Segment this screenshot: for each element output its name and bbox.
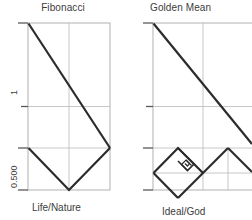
panel-golden-mean: Golden Mean: [126, 0, 252, 220]
fibonacci-ytick-0500: 0.500: [9, 165, 19, 188]
fibonacci-grid: [28, 23, 110, 190]
golden-mean-axis-ticks: [143, 23, 153, 190]
golden-mean-grid: [153, 23, 252, 190]
figure-canvas: Fibonacci: [0, 0, 252, 220]
golden-mean-xlabel: Ideal/God: [162, 206, 205, 217]
panel-fibonacci: Fibonacci: [0, 0, 126, 220]
fibonacci-xlabel: Life/Nature: [32, 202, 81, 213]
fibonacci-ytick-1: 1: [9, 90, 19, 95]
fibonacci-axis-ticks: [18, 23, 28, 190]
golden-mean-plot: [126, 0, 252, 220]
